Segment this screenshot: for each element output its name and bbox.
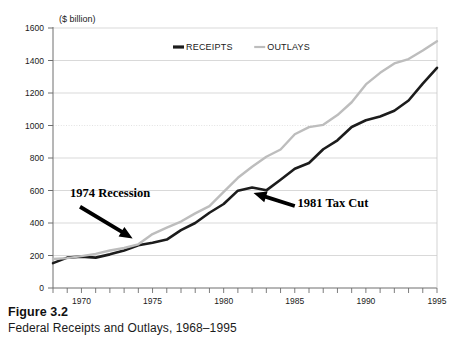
y-tick-label-1400: 1400 — [25, 56, 44, 66]
y-tick-label-1600: 1600 — [25, 23, 44, 33]
axes-group — [48, 27, 437, 293]
y-tick-label-1200: 1200 — [25, 88, 44, 98]
data-series-group — [53, 41, 437, 263]
figure-number: Figure 3.2 — [8, 305, 448, 320]
y-axis-tick-labels: 02004006008001000120014001600 — [25, 23, 44, 293]
legend-label-receipts: RECEIPTS — [186, 42, 233, 52]
y-tick-label-200: 200 — [30, 251, 44, 261]
figure-caption-text: Federal Receipts and Outlays, 1968–1995 — [8, 321, 448, 336]
y-tick-label-600: 600 — [30, 186, 44, 196]
annotation-arrow-tax-cut-1981 — [254, 192, 296, 208]
legend-label-outlays: OUTLAYS — [267, 42, 310, 52]
y-tick-label-800: 800 — [30, 153, 44, 163]
y-tick-label-400: 400 — [30, 218, 44, 228]
gridlines-group — [53, 28, 437, 256]
y-tick-label-1000: 1000 — [25, 121, 44, 131]
y-tick-label-0: 0 — [39, 283, 44, 293]
annotation-label-tax-cut-1981: 1981 Tax Cut — [298, 196, 370, 210]
annotations-group: 1974 Recession1981 Tax Cut — [70, 186, 369, 238]
annotation-label-recession-1974: 1974 Recession — [70, 186, 150, 200]
series-line-receipts — [53, 68, 437, 263]
figure-caption-block: Figure 3.2 Federal Receipts and Outlays,… — [8, 305, 448, 336]
line-chart: 02004006008001000120014001600 1970197519… — [0, 0, 458, 347]
chart-legend: RECEIPTSOUTLAYS — [173, 42, 310, 52]
y-axis-unit-label: ($ billion) — [59, 14, 96, 24]
annotation-arrow-recession-1974 — [79, 205, 133, 238]
y-axis-unit-text: ($ billion) — [59, 14, 96, 24]
figure-container: 02004006008001000120014001600 1970197519… — [0, 0, 458, 347]
